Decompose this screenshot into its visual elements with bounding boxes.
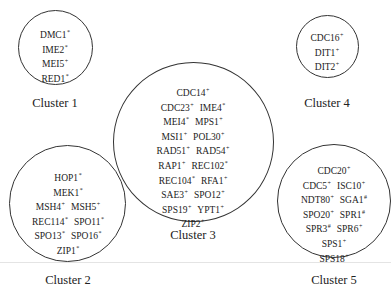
gene-item: MPS1+	[195, 114, 223, 129]
gene-item: CDC20+	[318, 163, 351, 178]
gene-item: REC114*	[32, 214, 68, 229]
gene-item: SPO20+	[303, 207, 334, 222]
gene-item: SPO13*	[35, 228, 65, 243]
cluster-3-label: Cluster 3	[170, 228, 215, 243]
gene-item: MEK1*	[53, 185, 82, 200]
gene-item: SPS18+	[319, 251, 348, 266]
cluster-2-label: Cluster 2	[45, 273, 90, 288]
gene-item: NDT80+	[301, 192, 334, 207]
gene-item: SPS1+	[322, 236, 347, 251]
gene-item: RAD51+	[157, 143, 190, 158]
gene-item: ISC10+	[337, 178, 365, 193]
gene-item: IME4*	[200, 100, 226, 115]
gene-item: SPR1#	[340, 207, 365, 222]
gene-item: MSH4+	[36, 199, 65, 214]
gene-item: SPR3#	[306, 221, 331, 236]
cluster-1-label: Cluster 1	[32, 96, 77, 111]
gene-item: DIT1+	[315, 45, 339, 60]
cluster-3-genes: CDC14+ CDC23+IME4* MEI4*MPS1+ MSI1+POL30…	[154, 85, 233, 231]
gene-item: CDC16+	[311, 30, 344, 45]
gene-item: RED1*	[41, 71, 68, 86]
gene-item: MSH5+	[71, 199, 100, 214]
gene-item: SPO16*	[71, 228, 101, 243]
cluster-1-genes: DMC1* IME2* MEI5+ RED1*	[37, 27, 73, 85]
gene-item: CDC23+	[161, 100, 194, 115]
gene-item: CDC14+	[177, 85, 210, 100]
cluster-2-genes: HOP1* MEK1* MSH4+MSH5+ REC114*SPO11* SPO…	[29, 170, 107, 258]
gene-item: IME2*	[42, 42, 68, 57]
gene-item: SPO11*	[74, 214, 104, 229]
gene-item: SPO12+	[194, 187, 225, 202]
gene-item: REC104*	[159, 173, 195, 188]
gene-item: MSI1+	[162, 129, 188, 144]
cluster-4-genes: CDC16+ DIT1+ DIT2+	[308, 30, 347, 74]
gene-item: SAE3+	[161, 187, 188, 202]
gene-item: YPT1+	[197, 202, 224, 217]
gene-item: HOP1*	[54, 170, 81, 185]
gene-item: RFA1+	[201, 173, 227, 188]
gene-item: DIT2+	[315, 59, 339, 74]
gene-item: MEI4*	[163, 114, 189, 129]
gene-item: REC102*	[191, 158, 227, 173]
gene-item: SPR6+	[337, 221, 363, 236]
gene-item: SPS19+	[162, 202, 191, 217]
gene-item: SGA1#	[340, 192, 367, 207]
gene-item: MEI5+	[42, 56, 68, 71]
gene-item: RAD54+	[196, 143, 229, 158]
gene-item: RAP1+	[158, 158, 185, 173]
cluster-4-label: Cluster 4	[304, 96, 349, 111]
gene-item: ZIP1*	[57, 243, 80, 258]
gene-item: CDC5+	[303, 178, 331, 193]
cluster-5-label: Cluster 5	[311, 273, 356, 288]
cluster-5-genes: CDC20+ CDC5+ISC10+ NDT80+SGA1# SPO20+SPR…	[298, 163, 370, 265]
gene-item: DMC1*	[40, 27, 70, 42]
gene-item: POL30+	[193, 129, 224, 144]
